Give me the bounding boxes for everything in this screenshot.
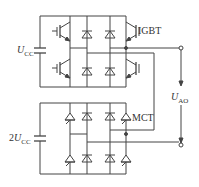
- igbt-bottom-right: [126, 59, 139, 78]
- mct-label: MCT: [132, 112, 154, 123]
- igbt-top-left: [52, 22, 70, 41]
- bottom-bridge: [34, 103, 179, 174]
- capacitor-top: [34, 48, 46, 56]
- igbt-label: IGBT: [138, 25, 161, 36]
- igbt-bottom-left: [52, 59, 70, 78]
- top-supply-label: UCC: [17, 44, 34, 58]
- circuit-diagram: [0, 0, 199, 187]
- mct-devices: [65, 113, 131, 166]
- capacitor-bottom: [34, 136, 46, 141]
- bottom-supply-label: 2UCC: [9, 132, 31, 146]
- output-voltage-label: UAO: [171, 91, 188, 105]
